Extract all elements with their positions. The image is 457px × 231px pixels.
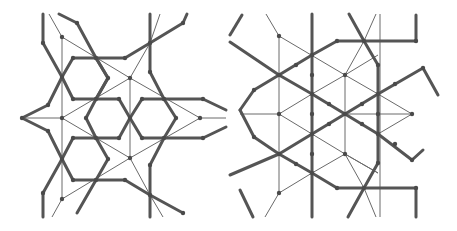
graph-node: [71, 178, 75, 182]
thick-edge: [59, 14, 96, 58]
graph-node: [106, 76, 110, 80]
thick-edge: [96, 14, 187, 58]
thick-edge: [43, 159, 62, 217]
graph-node: [376, 63, 380, 67]
graph-node: [198, 116, 202, 120]
graph-node: [327, 102, 331, 106]
graph-node: [410, 112, 414, 116]
tiling-graph-diagram: [0, 0, 457, 231]
graph-node: [148, 70, 152, 74]
graph-node: [343, 73, 347, 77]
graph-node: [60, 116, 64, 120]
thick-edge: [279, 41, 337, 75]
graph-node: [181, 21, 185, 25]
thick-edge: [43, 14, 62, 77]
graph-node: [343, 112, 347, 116]
thick-edge: [279, 154, 337, 188]
graph-node: [362, 39, 366, 43]
thick-edge: [240, 75, 279, 110]
thick-edge: [96, 180, 183, 213]
graph-node: [277, 34, 281, 38]
graph-node: [117, 97, 121, 101]
graph-node: [71, 97, 75, 101]
graph-node: [252, 135, 256, 139]
graph-node: [393, 142, 397, 146]
graph-node: [343, 152, 347, 156]
graph-node: [94, 56, 98, 60]
graph-node: [414, 186, 418, 190]
graph-node: [106, 157, 110, 161]
thin-edge: [265, 14, 279, 217]
graph-node: [410, 158, 414, 162]
graph-node: [71, 56, 75, 60]
graph-node: [335, 186, 339, 190]
left-panel: [20, 14, 226, 217]
graph-node: [277, 112, 281, 116]
thick-edge: [150, 138, 164, 217]
graph-node: [360, 122, 364, 126]
graph-node: [294, 162, 298, 166]
graph-node: [75, 21, 79, 25]
graph-node: [393, 82, 397, 86]
graph-node: [181, 211, 185, 215]
graph-node: [327, 122, 331, 126]
graph-node: [46, 103, 50, 107]
thick-edge: [86, 99, 130, 138]
graph-node: [310, 171, 314, 175]
graph-node: [117, 136, 121, 140]
thin-edge: [49, 14, 62, 217]
graph-node: [60, 197, 64, 201]
thin-edge: [62, 37, 226, 118]
graph-node: [46, 129, 50, 133]
graph-node: [128, 116, 132, 120]
graph-node: [362, 186, 366, 190]
graph-node: [310, 92, 314, 96]
right-panel: [230, 14, 438, 217]
graph-node: [84, 116, 88, 120]
graph-node: [41, 191, 45, 195]
graph-node: [277, 191, 281, 195]
graph-node: [128, 156, 132, 160]
thick-edge: [150, 14, 164, 99]
graph-node: [174, 116, 178, 120]
graph-node: [94, 136, 98, 140]
graph-node: [60, 75, 64, 79]
graph-node: [148, 193, 152, 197]
thick-edge: [337, 15, 416, 41]
graph-node: [20, 116, 24, 120]
graph-node: [310, 73, 314, 77]
graph-node: [60, 157, 64, 161]
graph-node: [376, 112, 380, 116]
graph-node: [376, 92, 380, 96]
graph-node: [140, 97, 144, 101]
thick-edge: [62, 138, 108, 180]
graph-node: [310, 152, 314, 156]
graph-node: [421, 66, 425, 70]
thick-edge: [77, 180, 96, 213]
figure: [0, 0, 457, 231]
graph-node: [60, 35, 64, 39]
graph-node: [201, 136, 205, 140]
graph-node: [360, 102, 364, 106]
graph-node: [414, 39, 418, 43]
graph-node: [310, 132, 314, 136]
graph-node: [162, 97, 166, 101]
graph-node: [148, 41, 152, 45]
graph-node: [201, 97, 205, 101]
graph-node: [128, 76, 132, 80]
graph-node: [335, 39, 339, 43]
graph-node: [277, 152, 281, 156]
thick-edge: [164, 127, 226, 138]
graph-node: [310, 112, 314, 116]
graph-node: [94, 97, 98, 101]
thick-edge: [230, 15, 242, 35]
graph-node: [376, 132, 380, 136]
thick-edge: [164, 99, 226, 110]
thick-edge: [240, 110, 279, 154]
graph-node: [94, 178, 98, 182]
graph-node: [310, 53, 314, 57]
graph-node: [140, 136, 144, 140]
graph-node: [41, 41, 45, 45]
graph-node: [123, 56, 127, 60]
thick-edge: [130, 99, 176, 138]
